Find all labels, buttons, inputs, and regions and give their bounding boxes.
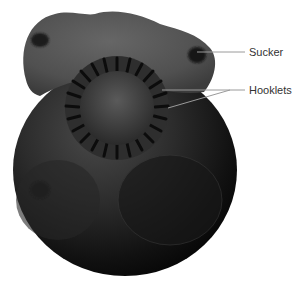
scolex-micrograph [0, 0, 304, 284]
sucker-top-left [31, 33, 49, 47]
rostellum-center [80, 71, 154, 145]
hooklets-label: Hooklets [249, 84, 292, 96]
lower-right-lobe [118, 155, 222, 245]
sucker-label: Sucker [249, 46, 283, 58]
sucker-top-right [188, 47, 206, 63]
lower-left-lobe [16, 160, 100, 240]
